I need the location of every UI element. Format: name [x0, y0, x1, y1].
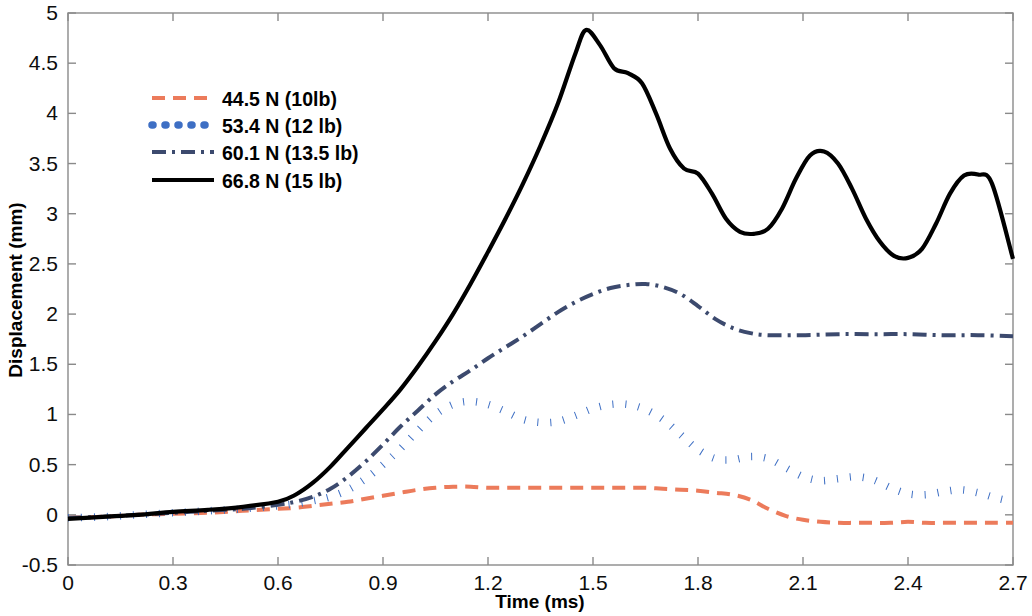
y-axis-title: Displacement (mm) [5, 202, 26, 377]
series-line-0 [68, 487, 1013, 523]
y-tick-label: -0.5 [22, 553, 58, 576]
data-series-group [68, 30, 1013, 523]
y-tick-label: 1.5 [29, 352, 58, 375]
y-tick-label: 4 [46, 101, 58, 124]
x-tick-label: 0.3 [158, 571, 187, 594]
series-line-2 [68, 284, 1013, 518]
y-tick-label: 1 [46, 402, 58, 425]
y-tick-label: 4.5 [29, 51, 58, 74]
chart-legend: 44.5 N (10lb)53.4 N (12 lb)60.1 N (13.5 … [152, 88, 359, 192]
y-tick-label: 3 [46, 202, 58, 225]
y-tick-label: 0 [46, 503, 58, 526]
x-tick-label: 0 [62, 571, 74, 594]
axis-ticks [68, 13, 1013, 565]
legend-label-0: 44.5 N (10lb) [222, 88, 337, 110]
displacement-vs-time-chart: 00.30.60.91.21.51.82.12.42.7 -0.500.511.… [0, 0, 1032, 616]
y-tick-label: 0.5 [29, 453, 58, 476]
y-tick-label: 2.5 [29, 252, 58, 275]
x-axis-title: Time (ms) [495, 591, 584, 612]
legend-label-1: 53.4 N (12 lb) [222, 115, 342, 137]
series-line-3 [68, 30, 1013, 519]
x-tick-label: 0.9 [368, 571, 397, 594]
series-line-1 [68, 401, 1013, 517]
x-tick-label: 2.1 [788, 571, 817, 594]
legend-label-2: 60.1 N (13.5 lb) [222, 142, 359, 164]
x-tick-label: 2.4 [893, 571, 923, 594]
chart-figure: 00.30.60.91.21.51.82.12.42.7 -0.500.511.… [0, 0, 1032, 616]
x-tick-label: 2.7 [998, 571, 1027, 594]
y-axis-tick-labels: -0.500.511.522.533.544.55 [22, 1, 59, 576]
y-tick-label: 2 [46, 302, 58, 325]
plot-frame [68, 13, 1013, 565]
x-tick-label: 0.6 [263, 571, 292, 594]
y-tick-label: 3.5 [29, 152, 58, 175]
y-tick-label: 5 [46, 1, 58, 24]
x-tick-label: 1.8 [683, 571, 712, 594]
legend-label-3: 66.8 N (15 lb) [222, 170, 342, 192]
